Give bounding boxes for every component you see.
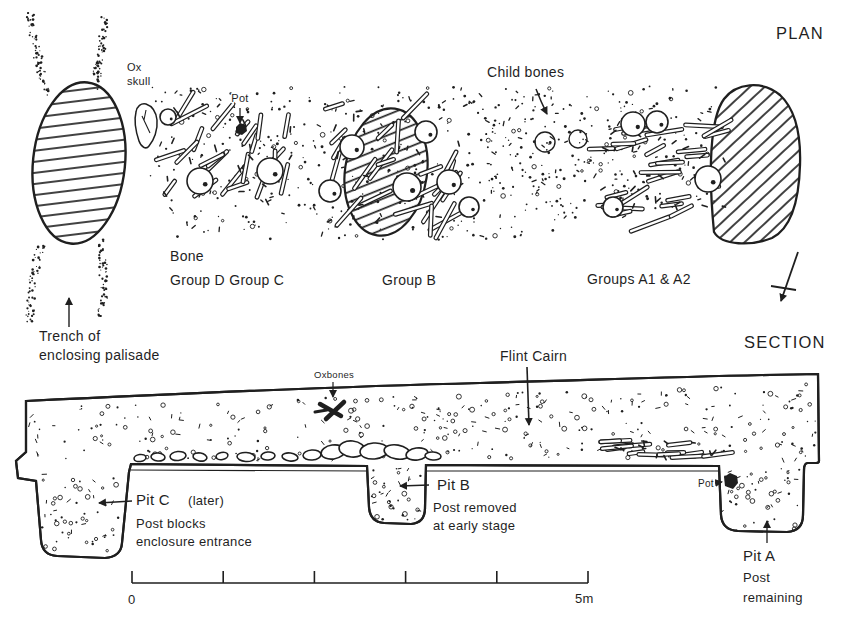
pit-c-desc-line2: enclosure entrance [136,534,252,549]
child-bones-arrow [536,89,547,114]
scale-bar [132,571,588,583]
palisade-post-pit [25,78,133,249]
plan-title: PLAN [776,24,824,42]
pit-c-note: (later) [188,493,224,508]
pit-b-name: Pit B [437,476,470,493]
pot-plan-drawing [236,123,247,135]
pit-a-desc-line1: Post [743,570,770,585]
scale-start-label: 0 [128,592,136,607]
group-b-label: Group B [382,272,436,288]
oxbones-label: Oxbones [314,369,354,380]
north-arrow [771,252,798,301]
bone-groups-label-line2: Group D Group C [170,272,284,288]
trench-label-line2: enclosing palisade [39,347,160,363]
pit-c-desc-line1: Post blocks [136,516,206,531]
pot-plan-label: Pot [231,92,248,104]
excavation-figure-page: PLAN Ox skull Pot Child bones Bone Group… [0,0,842,630]
section-view: SECTION Flint Cairn Oxbones Pit C (later… [16,333,826,607]
pit-a-desc-line2: remaining [743,590,803,605]
child-bones-scatter [486,117,623,188]
plan-and-section-figure: PLAN Ox skull Pot Child bones Bone Group… [0,0,842,630]
child-bones-label: Child bones [487,64,564,80]
trench-label-line1: Trench of [39,328,100,344]
ox-skull-label-line2: skull [127,75,151,87]
pit-c-name: Pit C [136,491,170,508]
flint-cairn-label: Flint Cairn [500,348,567,364]
ox-skull-label-line1: Ox [127,61,142,73]
pot-section-label: Pot [698,478,714,489]
groups-a-label: Groups A1 & A2 [587,271,691,287]
pit-a-name: Pit A [743,547,775,564]
pit-b-desc-line1: Post removed [433,500,517,515]
section-title: SECTION [744,333,826,351]
bone-groups-label-line1: Bone [170,248,204,264]
plan-view: PLAN Ox skull Pot Child bones Bone Group… [25,12,824,363]
scale-end-label: 5m [575,591,594,606]
burial-deposit-stipple [150,85,717,240]
pit-b-desc-line2: at early stage [433,518,515,533]
terminal-post-pit [711,85,800,243]
